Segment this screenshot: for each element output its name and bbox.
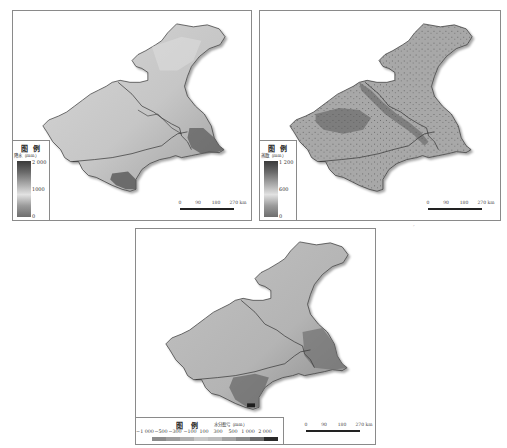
scale-label: 90 xyxy=(321,422,327,427)
max-surplus-spot xyxy=(247,403,255,407)
legend-swatch xyxy=(180,437,194,441)
evapotranspiration-legend: 图 例 蒸散（mm） 1 200 600 0 xyxy=(260,140,297,220)
scale-segment xyxy=(180,208,198,210)
legend-class-label: 1 000 xyxy=(241,429,255,434)
scale-segment xyxy=(342,430,360,432)
legend-unit-label: 降水（mm） xyxy=(14,152,50,158)
legend-swatch xyxy=(264,437,278,441)
scale-segment xyxy=(324,430,342,432)
scale-segment xyxy=(198,208,216,210)
water-balance-legend: 图 例 水分盈亏（mm） −1 000 −500 −300 −100 100 3… xyxy=(136,417,284,444)
scale-label: 0 xyxy=(427,200,430,205)
legend-swatch xyxy=(222,437,236,441)
legend-swatch-row xyxy=(152,437,278,441)
lighter-north-patch xyxy=(152,37,202,71)
legend-swatch xyxy=(166,437,180,441)
legend-swatch xyxy=(250,437,264,441)
legend-tick-mid: 1000 xyxy=(32,186,45,192)
legend-swatch xyxy=(236,437,250,441)
legend-tick-min: 0 xyxy=(32,213,35,219)
stray-mark: ˊ xyxy=(412,224,415,231)
legend-class-label: −300 xyxy=(168,429,181,434)
legend-swatch xyxy=(208,437,222,441)
legend-tick-mid: 600 xyxy=(279,186,289,192)
legend-class-label: 2 000 xyxy=(258,429,272,434)
water-balance-map-panel: 图 例 水分盈亏（mm） −1 000 −500 −300 −100 100 3… xyxy=(135,228,376,445)
precipitation-map-panel: 图 例 降水（mm） 2 000 1000 0 0 90 180 270 km xyxy=(12,10,252,221)
legend-class-label: −1 000 xyxy=(136,429,154,434)
scale-bar: 0 90 180 270 km xyxy=(304,422,366,436)
scale-bar: 0 90 180 270 km xyxy=(426,200,488,214)
scale-label: 90 xyxy=(195,200,201,205)
scale-bar: 0 90 180 270 km xyxy=(178,200,240,214)
water-balance-map xyxy=(136,229,375,444)
legend-swatch xyxy=(194,437,208,441)
legend-class-label: 500 xyxy=(228,429,237,434)
legend-class-label: 100 xyxy=(199,429,208,434)
legend-tick-max: 1 200 xyxy=(279,159,293,165)
scale-label: 0 xyxy=(305,422,308,427)
scale-segment xyxy=(446,208,464,210)
scale-label: 0 xyxy=(179,200,182,205)
scale-label: 270 km xyxy=(229,200,246,205)
scale-label: 90 xyxy=(443,200,449,205)
legend-swatch xyxy=(152,437,166,441)
scale-label: 180 xyxy=(212,200,221,205)
scale-segment xyxy=(216,208,234,210)
legend-color-ramp xyxy=(264,161,278,217)
legend-tick-max: 2 000 xyxy=(32,159,46,165)
legend-unit-label: 蒸散（mm） xyxy=(261,152,297,158)
scale-label: 180 xyxy=(338,422,347,427)
precipitation-legend: 图 例 降水（mm） 2 000 1000 0 xyxy=(13,140,50,220)
legend-class-label: 300 xyxy=(213,429,222,434)
scale-segment xyxy=(428,208,446,210)
legend-unit-label: 水分盈亏（mm） xyxy=(214,421,247,427)
evapotranspiration-map-panel: 图 例 蒸散（mm） 1 200 600 0 0 90 180 270 km xyxy=(259,10,501,221)
scale-segment xyxy=(306,430,324,432)
scale-label: 270 km xyxy=(355,422,372,427)
legend-class-label: −500 xyxy=(154,429,167,434)
legend-tick-min: 0 xyxy=(279,213,282,219)
scale-label: 270 km xyxy=(477,200,494,205)
legend-color-ramp xyxy=(17,161,31,217)
legend-class-label: −100 xyxy=(183,429,196,434)
scale-label: 180 xyxy=(460,200,469,205)
scale-segment xyxy=(464,208,482,210)
